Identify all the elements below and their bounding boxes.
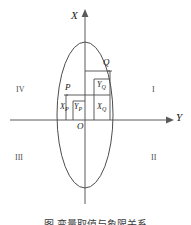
component-sub-y-p: P — [78, 106, 82, 112]
component-sub-x-q: Q — [102, 106, 106, 112]
quadrant-label-upper-right: I — [152, 86, 155, 94]
component-label-y-q: YQ — [97, 81, 106, 89]
component-label-y-p: YP — [74, 103, 82, 111]
component-label-x-q: XQ — [97, 103, 106, 111]
y-axis-arrowhead — [166, 117, 174, 124]
x-axis-label: X — [71, 10, 78, 21]
component-label-x-p: XP — [60, 103, 69, 111]
quadrant-label-lower-left: III — [15, 154, 23, 162]
point-label-p: P — [65, 83, 71, 92]
y-axis-label: Y — [176, 112, 182, 123]
point-label-q: Q — [103, 58, 110, 67]
figure-container: X Y O P Q XP YP XQ YQ IV I III II 图 变量取值… — [0, 0, 191, 225]
point-q-construction — [85, 71, 112, 120]
coordinate-diagram — [0, 0, 191, 225]
figure-caption: 图 变量取值与象限关系 — [0, 216, 191, 225]
axes-group — [10, 9, 174, 204]
component-sub-y-q: Q — [101, 84, 105, 90]
quadrant-label-upper-left: IV — [16, 86, 24, 94]
quadrant-label-lower-right: II — [151, 154, 156, 162]
component-sub-x-p: P — [65, 106, 69, 112]
x-axis-arrowhead — [82, 9, 89, 17]
origin-label: O — [77, 122, 84, 131]
